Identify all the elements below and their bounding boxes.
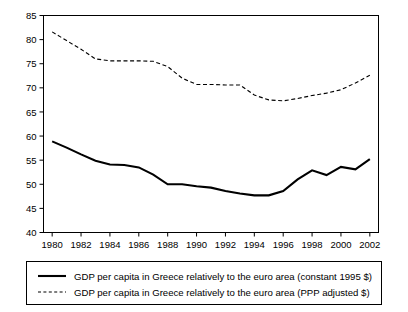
x-axis-tick-label: 1984 xyxy=(99,239,120,250)
y-axis-tick-label: 75 xyxy=(26,58,37,69)
y-axis-tick-label: 60 xyxy=(26,131,37,142)
y-axis-tick-label: 40 xyxy=(26,227,37,238)
x-axis-tick-label: 1998 xyxy=(302,239,323,250)
y-axis-tick-label: 80 xyxy=(26,34,37,45)
y-axis-tick-label: 85 xyxy=(26,10,37,21)
y-axis-tick-label: 50 xyxy=(26,179,37,190)
y-axis-tick-label: 45 xyxy=(26,203,37,214)
legend-label-2: GDP per capita in Greece relatively to t… xyxy=(74,287,370,298)
legend-label-1: GDP per capita in Greece relatively to t… xyxy=(74,271,372,282)
y-axis-tick-label: 70 xyxy=(26,82,37,93)
chart-background xyxy=(0,0,408,312)
x-axis-tick-label: 2002 xyxy=(359,239,380,250)
line-chart: 40455055606570758085 1980198219841986198… xyxy=(0,0,408,312)
x-axis-tick-label: 1996 xyxy=(273,239,294,250)
x-axis-tick-label: 1988 xyxy=(157,239,178,250)
chart-container: 40455055606570758085 1980198219841986198… xyxy=(0,0,408,312)
x-axis-tick-label: 1990 xyxy=(186,239,207,250)
x-axis-tick-label: 1980 xyxy=(42,239,63,250)
x-axis-tick-label: 1986 xyxy=(128,239,149,250)
x-axis-tick-label: 1992 xyxy=(215,239,236,250)
y-axis-tick-label: 55 xyxy=(26,155,37,166)
x-axis-tick-label: 2000 xyxy=(330,239,351,250)
x-axis-tick-label: 1982 xyxy=(70,239,91,250)
y-axis-tick-label: 65 xyxy=(26,107,37,118)
x-axis-tick-label: 1994 xyxy=(244,239,265,250)
